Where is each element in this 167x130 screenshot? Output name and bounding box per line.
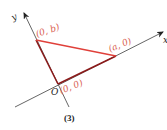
coordinate-diagram: y x O (0, b) (a, 0) (0, 0) (3): [0, 0, 167, 130]
point-a-label: (a, 0): [107, 35, 133, 53]
y-axis-label: y: [9, 11, 20, 23]
point-origin-label: (0, 0): [58, 77, 85, 96]
x-axis-label: x: [163, 35, 167, 45]
hypotenuse: [36, 40, 116, 56]
leg-ox: [58, 56, 116, 84]
figure-caption: (3): [64, 113, 75, 123]
leg-oy: [36, 40, 58, 84]
point-b-label: (0, b): [35, 22, 62, 39]
